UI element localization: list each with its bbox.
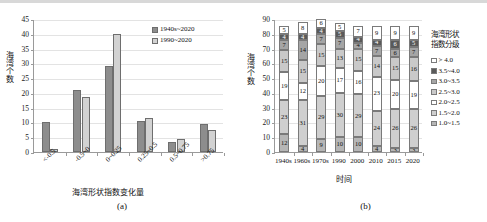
chart-b-y-tick-label: 10: [254, 134, 270, 142]
chart-b-bar-segment: 16: [409, 57, 419, 81]
chart-b-stacked-bar: 9292015746: [316, 19, 326, 152]
chart-b-y-tick-mark: [272, 109, 275, 110]
chart-b-bar-segment: 6: [390, 49, 400, 58]
chart-b-y-tick-label: 30: [254, 105, 270, 113]
chart-b-x-tick-label: 1940s: [274, 157, 293, 165]
chart-b-bar-segment: 4: [353, 37, 363, 43]
chart-a-y-tick-mark: [31, 64, 34, 65]
chart-b-bar-segment: 9: [372, 26, 382, 39]
chart-b-x-tick-label: 2015: [385, 157, 404, 165]
figure-container: 海湾个数 海湾形状指数变化量 1940s~20201990~2020 (a) 0…: [0, 3, 487, 222]
chart-a-y-tick-mark: [31, 35, 34, 36]
chart-b-x-tick-mark: [368, 153, 369, 156]
chart-b-bar-segment: 14: [298, 40, 308, 61]
chart-b-x-tick-label: 1960s: [293, 157, 312, 165]
chart-b-bar-segment: 9: [409, 26, 419, 39]
chart-a-y-tick-mark: [31, 153, 34, 154]
chart-b-legend-item: 2.5~3.0: [431, 87, 460, 98]
chart-b-legend-swatch: [431, 121, 437, 127]
chart-b-y-tick-label: 0: [254, 149, 270, 157]
chart-b-bar-segment: 3: [390, 148, 400, 152]
chart-a-y-tick-mark: [31, 109, 34, 110]
chart-a-gridline: [34, 35, 223, 36]
chart-b-legend-swatch: [431, 100, 437, 106]
chart-a-legend-label: 1940s~2020: [160, 24, 195, 35]
chart-a-x-tick-mark: [161, 153, 162, 156]
chart-b-bar-segment: 5: [279, 26, 289, 33]
chart-b-x-tick-mark: [349, 153, 350, 156]
chart-b-bar-segment: 20: [316, 66, 326, 96]
chart-b-x-tick-mark: [331, 153, 332, 156]
chart-b-bar-segment: 7: [409, 47, 419, 57]
chart-a-legend: 1940s~20201990~2020: [152, 24, 195, 46]
chart-a-legend-item: 1940s~2020: [152, 24, 195, 35]
chart-b-legend-item: > 4.0: [431, 55, 460, 66]
chart-b-x-tick-mark: [312, 153, 313, 156]
chart-a-y-tick-mark: [31, 138, 34, 139]
chart-b-bar-segment: 30: [335, 93, 345, 137]
chart-a-bar: [73, 90, 81, 152]
chart-b-bar-segment: 4: [298, 34, 308, 40]
chart-a-y-tick-mark: [31, 94, 34, 95]
panel-b: 1223191574543112151448929201574610301713…: [244, 3, 487, 222]
chart-b-bar-segment: 5: [335, 23, 345, 30]
chart-b-bar-segment: 4: [353, 43, 363, 49]
chart-b-y-tick-label: 90: [254, 16, 270, 24]
chart-b-bar-segment: 23: [279, 100, 289, 134]
chart-b-y-tick-mark: [272, 79, 275, 80]
chart-b-legend-label: > 4.0: [439, 55, 453, 66]
chart-b-stacked-bar: 3261916759: [409, 19, 419, 152]
chart-a-x-tick-mark: [66, 153, 67, 156]
chart-b-bar-segment: 7: [279, 40, 289, 50]
chart-a-y-tick-label: 35: [14, 46, 29, 54]
chart-b-legend-label: 2.5~3.0: [439, 87, 460, 98]
chart-a-bar: [137, 121, 145, 152]
chart-b-legend-item: 2.0~2.5: [431, 97, 460, 108]
chart-a-gridline: [34, 138, 223, 139]
chart-b-legend-label: 1.0~1.5: [439, 118, 460, 129]
chart-b-x-tick-mark: [405, 153, 406, 156]
chart-b-bar-segment: 9: [316, 139, 326, 152]
chart-a-y-tick-label: 25: [14, 75, 29, 83]
chart-b-y-tick-label: 50: [254, 75, 270, 83]
chart-b-plot-area: 1223191574543112151448929201574610301713…: [274, 20, 422, 153]
chart-a-y-tick-label: 30: [14, 60, 29, 68]
chart-a-bar: [200, 124, 208, 152]
panel-a: 海湾个数 海湾形状指数变化量 1940s~20201990~2020 (a) 0…: [0, 3, 244, 222]
chart-a-x-axis-title: 海湾形状指数变化量: [72, 186, 144, 197]
chart-b-bar-segment: 12: [279, 134, 289, 152]
chart-b-legend-swatch: [431, 89, 437, 95]
chart-b-bar-segment: 10: [353, 137, 363, 152]
chart-a-gridline: [34, 50, 223, 51]
chart-b-legend-label: 3.5~4.0: [439, 66, 460, 77]
chart-a-legend-item: 1990~2020: [152, 35, 195, 46]
chart-b-bar-segment: 7: [335, 38, 345, 48]
chart-b-bar-segment: 10: [335, 137, 345, 152]
chart-a-gridline: [34, 123, 223, 124]
chart-b-bar-segment: 7: [316, 34, 326, 44]
chart-b-legend-swatch: [431, 58, 437, 64]
chart-b-bar-segment: 7: [372, 46, 382, 56]
chart-b-y-tick-mark: [272, 138, 275, 139]
chart-b-bar-segment: 26: [390, 109, 400, 147]
chart-b-bar-segment: 6: [316, 19, 326, 28]
chart-b-legend-item: 3.5~4.0: [431, 66, 460, 77]
chart-a-y-tick-label: 5: [14, 134, 29, 142]
chart-b-bar-segment: 15: [353, 49, 363, 71]
chart-a-gridline: [34, 79, 223, 80]
chart-b-bar-segment: 14: [372, 56, 382, 77]
chart-a-x-tick-mark: [129, 153, 130, 156]
chart-b-legend-swatch: [431, 110, 437, 116]
chart-b-bar-segment: 8: [298, 22, 308, 34]
chart-b-y-tick-mark: [272, 64, 275, 65]
chart-a-legend-swatch: [152, 27, 158, 33]
chart-b-caption: (b): [244, 201, 487, 211]
chart-b-legend-item: 1.5~2.0: [431, 108, 460, 119]
chart-b-y-axis-title: 海湾个数: [245, 53, 253, 85]
chart-a-y-tick-mark: [31, 123, 34, 124]
chart-a-bar: [113, 34, 121, 152]
chart-a-bar: [105, 66, 113, 152]
chart-a-gridline: [34, 20, 223, 21]
chart-b-x-tick-label: 2020: [404, 157, 423, 165]
chart-b-y-tick-label: 70: [254, 46, 270, 54]
